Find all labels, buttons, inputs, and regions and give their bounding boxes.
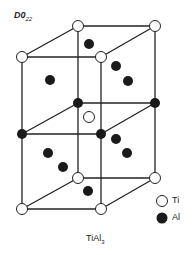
ti-atoms <box>17 21 161 215</box>
crystal-structure-diagram <box>0 0 192 255</box>
legend-symbols <box>157 196 168 224</box>
legend-label-al: Al <box>172 212 180 222</box>
al-legend-icon <box>157 213 168 224</box>
legend-label-ti: Ti <box>172 195 179 205</box>
ti-legend-icon <box>157 196 168 207</box>
compound-caption: TiAl3 <box>86 233 105 245</box>
